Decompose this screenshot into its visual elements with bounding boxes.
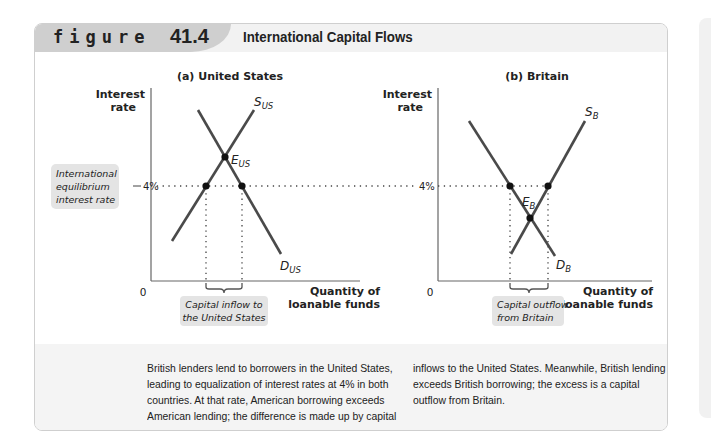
y-axis-label-us-line2: rate [110,101,136,114]
x-axis-label-us-line1: Quantity of [310,285,380,298]
outflow-label-line2: from Britain [497,312,554,323]
inflow-brace [206,283,242,293]
chart-title-britain: (b) Britain [505,70,569,83]
y-axis-label-us-line1: Interest [96,88,145,101]
equilibrium-point-britain [526,214,533,221]
equilibrium-label-britain: EB [522,195,536,211]
x-axis-label-b-line2: loanable funds [561,298,653,311]
chart-britain: (b) Britain Interest rate 0 Quantity of … [383,70,654,326]
origin-label-britain: 0 [427,286,434,298]
chart-united-states: (a) United States Interest rate 0 Quanti… [51,70,430,326]
supply-label-us: SUS [254,95,274,111]
lending-point-britain [544,182,551,189]
y-axis-label-b-line2: rate [397,101,423,114]
origin-label-us: 0 [140,286,147,298]
intl-rate-label-line3: interest rate [56,194,115,205]
borrowing-point-us [238,182,245,189]
outflow-brace [510,283,548,293]
x-axis-label-b-line1: Quantity of [583,285,653,298]
intl-rate-label-line1: International [56,168,117,179]
intl-rate-label-line2: equilibrium [56,181,110,192]
tick-label-4pct-britain: 4% [419,181,435,192]
tick-label-4pct-us: 4% [143,181,159,192]
inflow-label-line1: Capital inflow to [185,299,262,310]
inflow-label-line2: the United States [183,312,266,323]
supply-curve-us [172,110,254,241]
demand-label-us: DUS [280,259,301,275]
lending-point-us [202,182,209,189]
chart-title-us: (a) United States [177,70,284,83]
outflow-label-line1: Capital outflow [497,299,569,310]
x-axis-label-us-line2: loanable funds [288,298,380,311]
equilibrium-label-us: EUS [231,153,251,169]
supply-label-britain: SB [585,105,599,121]
borrowing-point-britain [506,182,513,189]
equilibrium-point-us [221,153,228,160]
demand-label-britain: DB [556,258,571,274]
y-axis-label-b-line1: Interest [383,88,432,101]
